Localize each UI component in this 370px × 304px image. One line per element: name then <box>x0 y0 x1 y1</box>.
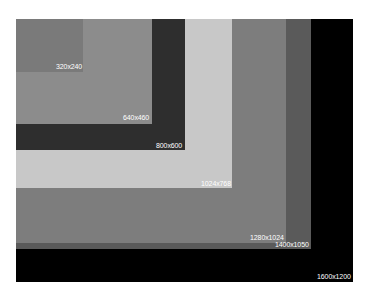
label-1400x1050: 1400x1050 <box>275 241 309 249</box>
label-1280x1024: 1280x1024 <box>250 234 284 242</box>
label-640x460: 640x460 <box>123 114 149 122</box>
label-320x240: 320x240 <box>56 63 82 71</box>
label-1600x1200: 1600x1200 <box>317 273 351 281</box>
label-800x600: 800x600 <box>156 142 182 150</box>
label-1024x768: 1024x768 <box>201 180 231 188</box>
